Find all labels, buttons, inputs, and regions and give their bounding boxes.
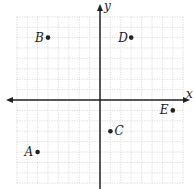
coordinate-plane	[0, 0, 193, 189]
x-axis-label: x	[186, 88, 193, 100]
point-e	[171, 108, 176, 113]
point-label-b: B	[35, 32, 44, 44]
point-label-d: D	[118, 32, 128, 44]
point-d	[129, 35, 134, 40]
point-label-a: A	[25, 146, 34, 158]
x-axis-left-arrow-icon	[6, 97, 13, 103]
y-axis-up-arrow-icon	[97, 4, 103, 11]
point-a	[35, 150, 40, 155]
point-label-c: C	[114, 125, 123, 137]
axes	[6, 4, 190, 189]
point-c	[108, 129, 113, 134]
point-b	[46, 35, 51, 40]
y-axis-label: y	[104, 0, 111, 12]
point-label-e: E	[160, 104, 169, 116]
points	[35, 35, 175, 154]
